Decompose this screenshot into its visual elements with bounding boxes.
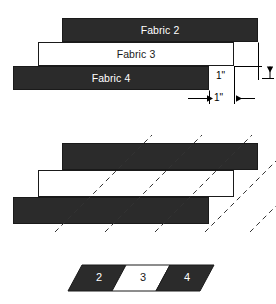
result-segment-3-label: 3: [140, 272, 146, 283]
fabric-4-strip: Fabric 4: [13, 66, 209, 90]
result-segment-2-label: 2: [96, 272, 102, 283]
fabric-3-strip: Fabric 3: [38, 42, 234, 66]
diagram-canvas: Fabric 2Fabric 3Fabric 4 1" 1": [0, 0, 276, 304]
fabric-3-label: Fabric 3: [117, 49, 156, 60]
fabric-3-sewn-strip: [38, 170, 234, 197]
fabric-2-strip: Fabric 2: [62, 18, 258, 42]
fabric-2-label: Fabric 2: [141, 25, 180, 36]
vertical-offset-dimension-label: 1": [216, 71, 225, 81]
horizontal-offset-dimension-label: 1": [214, 93, 223, 103]
fabric-4-sewn-strip: [13, 197, 209, 224]
fabric-2-sewn-strip: [62, 143, 258, 170]
fabric-4-label: Fabric 4: [92, 73, 131, 84]
result-segment-4-label: 4: [184, 272, 190, 283]
